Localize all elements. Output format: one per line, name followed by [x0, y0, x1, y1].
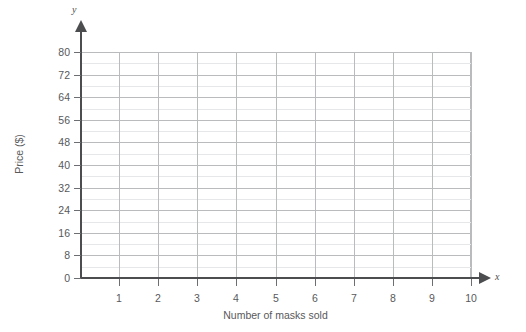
x-axis-ticklabel-wrap: 1 [104, 288, 134, 306]
y-axis-tick [74, 165, 81, 166]
y-axis-arrow-icon [75, 20, 87, 32]
x-axis-ticklabel: 2 [155, 292, 161, 304]
x-axis-ticklabel: 6 [312, 292, 318, 304]
x-axis-ticklabel-wrap: 10 [456, 288, 486, 306]
x-axis-ticklabel: 9 [429, 292, 435, 304]
x-axis-ticklabel: 8 [390, 292, 396, 304]
y-axis-ticklabel-wrap: 48 [40, 142, 70, 143]
x-axis-tick [197, 279, 198, 286]
y-axis-ticklabel: 8 [44, 250, 70, 261]
y-axis-ticklabel: 80 [44, 47, 70, 58]
y-axis-variable-label: y [72, 4, 76, 15]
y-axis-ticklabel-wrap: 24 [40, 210, 70, 211]
y-axis-ticklabel: 24 [44, 205, 70, 216]
x-axis-tick [471, 279, 472, 286]
x-axis-ticklabel-wrap: 7 [339, 288, 369, 306]
x-axis-ticklabel-wrap: 5 [261, 288, 291, 306]
y-axis-tick [74, 52, 81, 53]
gridline-vertical [236, 52, 237, 278]
y-axis-ticklabel: 64 [44, 92, 70, 103]
x-axis-ticklabel-wrap: 3 [182, 288, 212, 306]
gridline-vertical [119, 52, 120, 278]
y-axis-tick [74, 255, 81, 256]
gridline-vertical [432, 52, 433, 278]
y-axis-ticklabel: 72 [44, 70, 70, 81]
x-axis-ticklabel-wrap: 4 [221, 288, 251, 306]
gridline-vertical [393, 52, 394, 278]
y-axis-tick [74, 188, 81, 189]
y-axis-ticklabel-wrap: 0 [40, 278, 70, 279]
gridline-vertical [197, 52, 198, 278]
y-axis-ticklabel: 16 [44, 228, 70, 239]
x-axis-ticklabel: 3 [194, 292, 200, 304]
y-axis-tick [74, 120, 81, 121]
y-axis-tick [74, 210, 81, 211]
y-axis-ticklabel: 56 [44, 115, 70, 126]
y-axis-ticklabel-wrap: 40 [40, 165, 70, 166]
y-axis-tick [74, 278, 81, 279]
gridline-vertical [158, 52, 159, 278]
y-axis-tick [74, 97, 81, 98]
x-axis-tick [119, 279, 120, 286]
y-axis-tick [74, 75, 81, 76]
y-axis-tick [74, 142, 81, 143]
x-axis-tick [158, 279, 159, 286]
y-axis-ticklabel-wrap: 80 [40, 52, 70, 53]
y-axis-ticklabel-wrap: 56 [40, 120, 70, 121]
gridline-vertical [276, 52, 277, 278]
gridline-vertical [315, 52, 316, 278]
x-axis-line [80, 277, 480, 279]
x-axis-arrow-icon [479, 272, 491, 284]
x-axis-ticklabel: 10 [465, 292, 477, 304]
x-axis-ticklabel-wrap: 9 [417, 288, 447, 306]
x-axis-ticklabel-wrap: 6 [300, 288, 330, 306]
x-axis-tick [276, 279, 277, 286]
chart-container: y x Price ($) Number of masks sold 08162… [0, 0, 526, 332]
x-axis-tick [432, 279, 433, 286]
y-axis-title: Price ($) [13, 114, 25, 194]
y-axis-ticklabel: 40 [44, 160, 70, 171]
plot-area [80, 52, 471, 278]
gridline-vertical [354, 52, 355, 278]
y-axis-line [80, 30, 82, 279]
x-axis-ticklabel: 1 [116, 292, 122, 304]
y-axis-ticklabel: 32 [44, 183, 70, 194]
y-axis-ticklabel-wrap: 32 [40, 188, 70, 189]
x-axis-tick [315, 279, 316, 286]
x-axis-variable-label: x [495, 271, 499, 282]
x-axis-title: Number of masks sold [80, 309, 471, 321]
x-axis-tick [354, 279, 355, 286]
x-axis-tick [236, 279, 237, 286]
gridline-vertical [471, 52, 472, 278]
y-axis-ticklabel: 0 [44, 273, 70, 284]
y-axis-tick [74, 233, 81, 234]
y-axis-ticklabel-wrap: 16 [40, 233, 70, 234]
x-axis-ticklabel: 7 [351, 292, 357, 304]
y-axis-ticklabel-wrap: 8 [40, 255, 70, 256]
y-axis-ticklabel: 48 [44, 137, 70, 148]
x-axis-ticklabel-wrap: 2 [143, 288, 173, 306]
y-axis-ticklabel-wrap: 64 [40, 97, 70, 98]
y-axis-ticklabel-wrap: 72 [40, 75, 70, 76]
x-axis-ticklabel-wrap: 8 [378, 288, 408, 306]
x-axis-ticklabel: 5 [273, 292, 279, 304]
x-axis-tick [393, 279, 394, 286]
x-axis-ticklabel: 4 [233, 292, 239, 304]
